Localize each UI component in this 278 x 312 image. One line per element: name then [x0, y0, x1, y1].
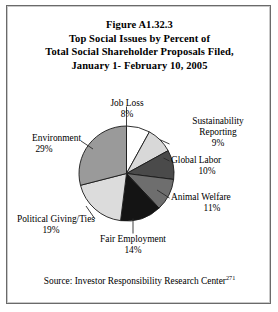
source-text: Source: Investor Responsibility Research… — [44, 276, 226, 286]
slice-label-global-labor-pct: 10% — [171, 166, 243, 177]
figure-source: Source: Investor Responsibility Research… — [7, 274, 272, 286]
slice-label-political-giving: Political Giving/Ties 19% — [7, 214, 95, 236]
slice-label-global-labor: Global Labor 10% — [171, 155, 243, 177]
figure-frame: Figure A1.32.3 Top Social Issues by Perc… — [6, 5, 271, 304]
slice-label-job-loss-pct: 8% — [86, 109, 168, 120]
slice-label-fair-employment: Fair Employment 14% — [90, 234, 176, 256]
slice-label-fair-employment-name: Fair Employment — [100, 234, 166, 244]
slice-label-sustainability: Sustainability Reporting 9% — [170, 116, 266, 149]
slice-label-animal-welfare-pct: 11% — [171, 203, 253, 214]
slice-label-fair-employment-pct: 14% — [90, 245, 176, 256]
slice-label-political-giving-pct: 19% — [7, 225, 95, 236]
slice-label-job-loss: Job Loss 8% — [86, 98, 168, 120]
pie-chart: Job Loss 8% Sustainability Reporting 9% … — [7, 6, 272, 305]
slice-label-sustainability-pct: 9% — [170, 138, 266, 149]
slice-label-sustainability-name-2: Reporting — [170, 127, 266, 138]
slice-label-job-loss-name: Job Loss — [110, 98, 143, 108]
pie-slices — [79, 126, 174, 221]
slice-label-environment-pct: 29% — [7, 144, 81, 155]
slice-label-animal-welfare: Animal Welfare 11% — [171, 192, 253, 214]
source-footnote: 271 — [226, 274, 235, 281]
slice-label-global-labor-name: Global Labor — [171, 155, 221, 165]
slice-label-sustainability-name-1: Sustainability — [192, 116, 244, 126]
slice-label-political-giving-name: Political Giving/Ties — [17, 214, 95, 224]
slice-label-animal-welfare-name: Animal Welfare — [171, 192, 231, 202]
slice-label-environment: Environment 29% — [7, 133, 81, 155]
slice-label-environment-name: Environment — [32, 133, 81, 143]
